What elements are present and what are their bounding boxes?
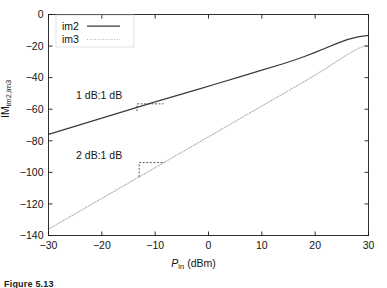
intermodulation-chart: −30−20−1001020300−20−40−60−80−100−120−14… [0,0,387,288]
chart-legend: im2im3 [56,15,134,47]
x-axis-title-subscript: in [178,262,184,271]
series-line-im3 [49,45,369,229]
axis-ticks [49,15,369,236]
annotation-label-slope-1db: 1 dB:1 dB [76,89,122,101]
annotation-label-slope-2db: 2 dB:1 dB [76,149,122,161]
x-tick-label: 20 [309,239,321,251]
x-tick-label: 0 [206,239,212,251]
x-tick-label: −20 [93,239,111,251]
y-tick-label: 0 [38,8,44,20]
y-tick-label: −60 [26,103,44,115]
annotation-labels: 1 dB:1 dB2 dB:1 dB [76,89,122,161]
x-axis-title: Pin (dBm) [0,258,387,269]
axis-frame [49,15,369,236]
y-axis-title-subscript: im2,im3 [4,80,13,107]
figure-caption-fragment: Figure 5.13 [4,279,54,288]
y-tick-label: −100 [20,166,44,178]
y-tick-label: −120 [20,198,44,210]
series-line-im2 [49,35,369,134]
figure-container: −30−20−1001020300−20−40−60−80−100−120−14… [0,0,387,288]
y-axis-title: IMim2,im3 [0,80,11,118]
x-tick-label: 30 [363,239,375,251]
x-tick-label: −10 [146,239,164,251]
x-tick-label: 10 [256,239,268,251]
legend-label-im2: im2 [62,20,79,32]
annotation-step-marker [137,104,164,111]
y-tick-label: −80 [26,135,44,147]
series-group [49,35,369,229]
y-axis-title-symbol: IM [0,106,11,118]
annotation-group [137,104,165,177]
x-axis-title-unit: (dBm) [184,257,216,269]
legend-label-im3: im3 [62,33,79,45]
y-tick-label: −20 [26,40,44,52]
y-tick-label: −140 [20,229,44,241]
y-tick-label: −40 [26,71,44,83]
